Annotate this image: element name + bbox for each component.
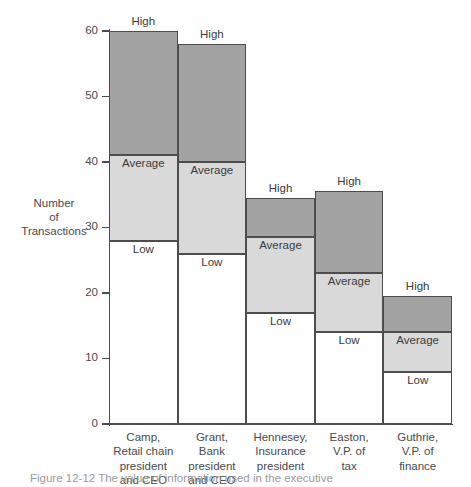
bar-segment-high[interactable]	[383, 296, 452, 332]
y-tick-label-10: 10	[64, 351, 98, 363]
bar-segment-label-high: High	[315, 175, 384, 187]
bar-segment-average[interactable]	[178, 162, 247, 254]
bar-segment-label-high: High	[109, 15, 178, 27]
bar-group[interactable]: AverageLowHigh	[383, 31, 452, 424]
x-axis-label-4: Easton, V.P. of tax	[315, 430, 384, 473]
bar-segment-high[interactable]	[178, 44, 247, 162]
y-tick-label-0: 0	[64, 417, 98, 429]
y-tick-label-20: 20	[64, 286, 98, 298]
x-axis-label-3: Hennesey, Insurance president	[246, 430, 315, 473]
y-tick-60	[102, 30, 109, 31]
bar-segment-low[interactable]	[246, 313, 315, 424]
y-tick-50	[102, 96, 109, 97]
figure-container: Number of Transactions 0102030405060 Ave…	[0, 0, 471, 487]
bar-segment-label-high: High	[383, 280, 452, 292]
bar-segment-average[interactable]	[109, 155, 178, 240]
bar-group[interactable]: AverageLowHigh	[246, 31, 315, 424]
bar-segment-average[interactable]	[315, 273, 384, 332]
bar-segment-low[interactable]	[383, 372, 452, 424]
y-tick-label-30: 30	[64, 220, 98, 232]
y-tick-20	[102, 292, 109, 293]
bar-segment-average[interactable]	[246, 237, 315, 312]
x-axis-label-5: Guthrie, V.P. of finance	[383, 430, 452, 473]
figure-caption: Figure 12-12 The value of information us…	[30, 472, 333, 484]
y-tick-30	[102, 227, 109, 228]
y-tick-10	[102, 358, 109, 359]
bar-group[interactable]: AverageLowHigh	[315, 31, 384, 424]
bar-segment-label-high: High	[178, 28, 247, 40]
bar-segment-high[interactable]	[315, 191, 384, 273]
bar-segment-low[interactable]	[178, 254, 247, 424]
bar-group[interactable]: AverageLowHigh	[178, 31, 247, 424]
bar-segment-high[interactable]	[246, 198, 315, 237]
bar-segment-high[interactable]	[109, 31, 178, 155]
y-tick-0	[102, 423, 109, 424]
bar-group[interactable]: AverageLowHigh	[109, 31, 178, 424]
y-tick-40	[102, 161, 109, 162]
plot-area: AverageLowHighAverageLowHighAverageLowHi…	[109, 31, 452, 424]
bar-segment-low[interactable]	[315, 332, 384, 424]
y-tick-label-60: 60	[64, 24, 98, 36]
y-tick-label-50: 50	[64, 89, 98, 101]
bar-segment-average[interactable]	[383, 332, 452, 371]
bar-segment-label-high: High	[246, 182, 315, 194]
y-tick-label-40: 40	[64, 155, 98, 167]
bar-segment-low[interactable]	[109, 241, 178, 424]
